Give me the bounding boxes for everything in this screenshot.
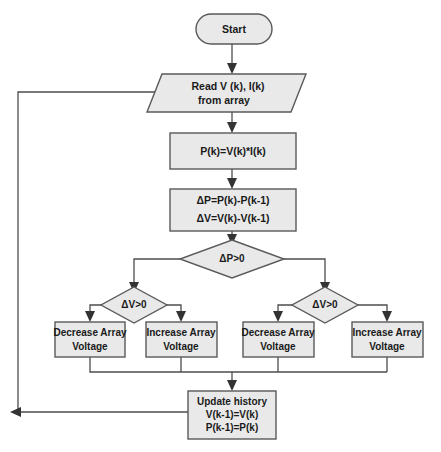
- node-delta-calc[interactable]: ΔP=P(k)-P(k-1) ΔV=V(k)-V(k-1): [170, 189, 296, 231]
- node-action-decrease-voltage-1[interactable]: Decrease Array Voltage: [53, 322, 126, 357]
- action2-label-line2: Voltage: [163, 341, 199, 352]
- read-label-line1: Read V (k), I(k): [192, 80, 265, 92]
- start-label: Start: [222, 23, 246, 35]
- action4-label-line1: Increase Array: [352, 327, 422, 338]
- decision-dp-label: ΔP>0: [219, 253, 245, 264]
- connector-dvright-to-action4: [358, 305, 387, 314]
- action3-label-line1: Decrease Array: [241, 327, 314, 338]
- flowchart-diagram: Start Read V (k), I(k) from array P(k)=V…: [0, 0, 441, 452]
- arrowhead-feedback-left: [10, 407, 21, 417]
- action4-label-line2: Voltage: [369, 341, 405, 352]
- update-label-line1: Update history: [197, 396, 267, 407]
- node-decision-delta-v-left[interactable]: ΔV>0: [101, 287, 167, 323]
- connector-dp-left-branch: [134, 259, 180, 285]
- node-power-calc[interactable]: P(k)=V(k)*I(k): [170, 133, 296, 169]
- decision-dv-right-label: ΔV>0: [312, 299, 338, 310]
- node-action-increase-voltage-1[interactable]: Increase Array Voltage: [146, 322, 217, 357]
- arrowhead-read-to-power: [227, 122, 237, 133]
- arrowhead-start-to-read: [227, 63, 237, 74]
- decision-dv-left-label: ΔV>0: [121, 299, 147, 310]
- update-label-line2: V(k-1)=V(k): [206, 409, 259, 420]
- action3-label-line2: Voltage: [260, 341, 296, 352]
- update-label-line3: P(k-1)=P(k): [206, 422, 259, 433]
- power-label: P(k)=V(k)*I(k): [200, 145, 266, 157]
- action1-label-line2: Voltage: [72, 341, 108, 352]
- connector-actions-merge-bus: [90, 357, 387, 372]
- node-start[interactable]: Start: [196, 14, 272, 44]
- node-decision-delta-v-right[interactable]: ΔV>0: [292, 287, 358, 323]
- read-label-line2: from array: [198, 94, 250, 106]
- node-update-history[interactable]: Update history V(k-1)=V(k) P(k-1)=P(k): [188, 391, 276, 439]
- arrowhead-power-to-deltas: [227, 178, 237, 189]
- arrowhead-action2: [176, 311, 186, 322]
- action1-label-line1: Decrease Array: [53, 327, 126, 338]
- node-read-input[interactable]: Read V (k), I(k) from array: [147, 74, 306, 112]
- node-action-decrease-voltage-2[interactable]: Decrease Array Voltage: [241, 322, 314, 357]
- arrowhead-action3: [273, 311, 283, 322]
- node-action-increase-voltage-2[interactable]: Increase Array Voltage: [352, 322, 423, 357]
- deltas-label-line1: ΔP=P(k)-P(k-1): [196, 194, 269, 206]
- arrowhead-action4: [382, 311, 392, 322]
- arrowhead-action1: [85, 311, 95, 322]
- action2-label-line1: Increase Array: [146, 327, 216, 338]
- connector-feedback-loop: [18, 92, 188, 412]
- deltas-label-line2: ΔV=V(k)-V(k-1): [196, 212, 269, 224]
- arrowhead-bus-to-update: [227, 380, 237, 391]
- connector-dp-right-branch: [284, 259, 325, 285]
- node-decision-delta-p[interactable]: ΔP>0: [180, 240, 284, 278]
